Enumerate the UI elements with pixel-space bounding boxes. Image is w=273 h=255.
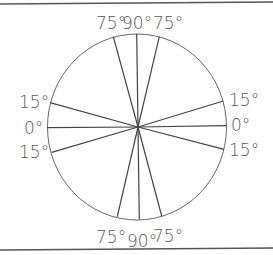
- label-right-0: 0°: [231, 115, 250, 135]
- angle-spokes: [47, 34, 226, 219]
- spoke-15-right-lower: [138, 127, 224, 149]
- spoke-75-upper-right: [138, 37, 159, 127]
- spoke-15-left-lower: [52, 127, 138, 152]
- spoke-75-lower-right: [138, 127, 162, 216]
- angle-circle-diagram: 75° 90° 75° 15° 0° 15° 15° 0° 15° 75° 90…: [0, 0, 273, 255]
- label-top-75-right: 75°: [153, 13, 183, 33]
- spoke-75-upper-left: [113, 37, 138, 127]
- frame-top-line: [0, 2, 273, 4]
- spoke-90-bottom: [138, 127, 139, 219]
- spoke-90-top: [137, 34, 138, 127]
- label-left-15-lower: 15°: [19, 142, 49, 162]
- label-top-90: 90°: [122, 13, 152, 33]
- spoke-15-right-upper: [138, 101, 223, 127]
- label-bottom-75-left: 75°: [96, 227, 126, 247]
- label-bottom-75-right: 75°: [153, 226, 183, 246]
- spoke-0-left: [47, 127, 138, 128]
- spoke-0-right: [138, 126, 226, 127]
- label-left-0: 0°: [24, 118, 43, 138]
- label-right-15-upper: 15°: [229, 90, 259, 110]
- spoke-15-left-upper: [50, 103, 138, 127]
- label-right-15-lower: 15°: [229, 140, 259, 160]
- label-left-15-upper: 15°: [19, 92, 49, 112]
- spoke-75-lower-left: [117, 127, 138, 217]
